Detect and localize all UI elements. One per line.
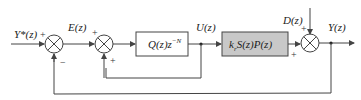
plant-transfer-label: S(z)P(z) <box>237 38 273 51</box>
plant-block: krS(z)P(z) <box>222 32 288 56</box>
disturbance-label: D(z) <box>282 14 303 27</box>
block-diagram: Y*(z) + − E(z) + + Q(z)z−N U(z) krS(z)P(… <box>0 0 361 100</box>
sum1-plus-sign: + <box>40 29 46 40</box>
sum1-minus-sign: − <box>60 57 66 68</box>
sum2-plus-sign-bottom: + <box>110 55 116 66</box>
control-label: U(z) <box>196 21 216 34</box>
summing-junction-2 <box>95 35 113 53</box>
repetitive-block-superscript: −N <box>172 37 182 45</box>
output-label: Y(z) <box>328 21 346 34</box>
repetitive-block-label: Q(z)z <box>148 38 173 51</box>
sum3-plus-sign-left: + <box>291 49 297 60</box>
summing-junction-3 <box>301 34 319 52</box>
repetitive-controller-block: Q(z)z−N <box>136 32 188 56</box>
sum3-plus-sign-top: + <box>301 23 307 34</box>
sum2-plus-sign-left: + <box>92 27 98 38</box>
outer-feedback-path <box>54 43 331 94</box>
reference-label: Y*(z) <box>14 28 38 41</box>
error-label: E(z) <box>67 21 87 34</box>
summing-junction-1 <box>45 35 63 53</box>
